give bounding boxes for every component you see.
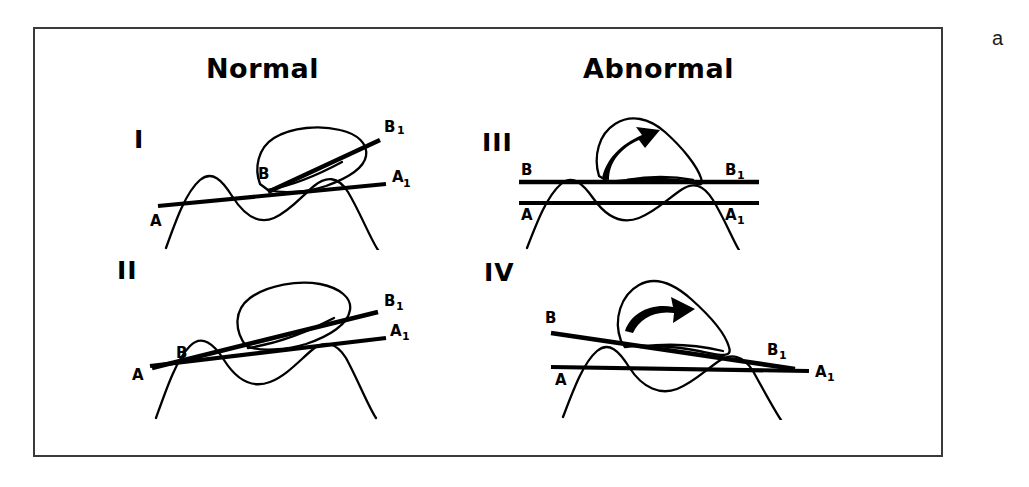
label-a-end-subscript-iii: 1 [737, 214, 745, 227]
column-heading-normal: Normal [206, 53, 319, 84]
panel-diagram-iv: B A B 1 A 1 [545, 245, 875, 420]
patella-outline-iii [597, 118, 702, 184]
label-b-start-i: B [258, 165, 269, 183]
label-b-end-subscript-iv: 1 [779, 349, 787, 362]
panel-numeral-i: I [134, 125, 144, 154]
patella-outline-ii [237, 283, 350, 350]
label-a-start-ii: A [132, 366, 144, 384]
trochlea-outline-iii [527, 180, 739, 250]
tilt-arrow-iii [602, 127, 660, 180]
label-b-end-subscript-iii: 1 [737, 169, 745, 182]
label-b-end-subscript-i: 1 [397, 124, 405, 137]
label-b-end-iv: B [767, 341, 778, 359]
label-b-end-iii: B [725, 161, 736, 179]
label-b-end-ii: B [384, 292, 395, 310]
label-b-end-subscript-ii: 1 [396, 300, 404, 313]
panel-diagram-i: A A 1 B B 1 [150, 100, 440, 250]
label-b-end-i: B [384, 118, 395, 136]
label-b-start-iv: B [545, 309, 556, 327]
label-b-start-iii: B [521, 161, 532, 179]
label-a-end-iv: A [815, 363, 827, 381]
tilt-arrow-iv [625, 297, 695, 333]
label-a-start-i: A [150, 212, 162, 230]
label-a-end-subscript-iv: 1 [827, 371, 835, 384]
panel-diagram-ii: A A 1 B B 1 [128, 240, 438, 420]
label-a-start-iii: A [521, 206, 533, 224]
label-a-start-iv: A [555, 371, 567, 389]
panel-diagram-iii: B B 1 A A 1 [497, 100, 797, 250]
trochlea-outline-iv [563, 347, 781, 420]
label-a-end-subscript-i: 1 [403, 177, 411, 190]
label-a-end-subscript-ii: 1 [402, 330, 410, 343]
label-a-end-ii: A [390, 322, 402, 340]
column-heading-abnormal: Abnormal [583, 53, 734, 84]
figure-part-label: a [992, 27, 1003, 50]
patella-outline-i [257, 127, 366, 192]
panel-numeral-iv: IV [484, 258, 515, 287]
label-b-start-ii: B [176, 344, 187, 362]
label-a-end-iii: A [725, 206, 737, 224]
